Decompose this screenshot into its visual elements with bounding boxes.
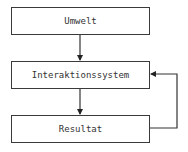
feedback-arrow-resultat-to-interaktion <box>150 74 177 128</box>
node-label: Interaktionssystem <box>32 70 130 80</box>
node-label: Umwelt <box>64 16 97 26</box>
node-umwelt: Umwelt <box>11 7 150 35</box>
node-interaktionssystem: Interaktionssystem <box>11 61 150 89</box>
node-resultat: Resultat <box>11 115 150 143</box>
node-label: Resultat <box>59 124 102 134</box>
